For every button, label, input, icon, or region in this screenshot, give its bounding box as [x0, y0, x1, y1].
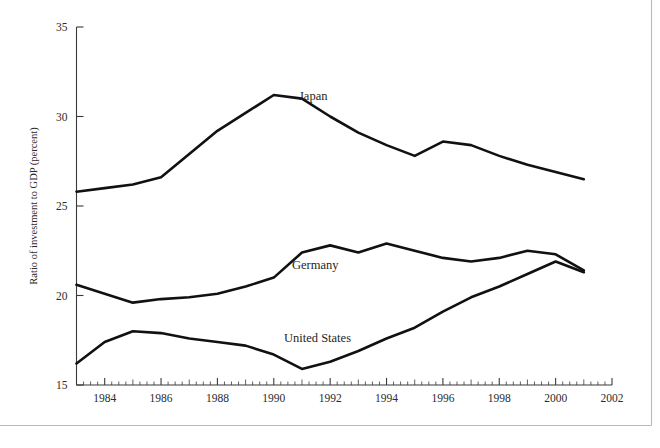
series-label-japan: Japan	[299, 89, 328, 103]
x-axis-ticks	[77, 378, 613, 385]
x-tick-label: 1992	[319, 392, 342, 404]
data-series-lines	[77, 95, 584, 369]
series-inline-labels: JapanGermanyUnited States	[284, 89, 351, 345]
x-tick-label: 1986	[150, 392, 173, 404]
y-tick-label: 30	[56, 111, 68, 123]
y-axis-tick-labels: 1520253035	[56, 21, 68, 391]
y-tick-label: 25	[56, 200, 68, 212]
x-tick-label: 1990	[262, 392, 285, 404]
x-tick-label: 1994	[375, 392, 398, 404]
series-line-japan	[77, 95, 584, 192]
y-tick-label: 20	[56, 290, 68, 302]
y-axis-title-text: Ratio of investment to GDP (percent)	[28, 127, 40, 285]
x-axis-tick-labels: 1984198619881990199219941996199820002002	[93, 392, 624, 404]
y-axis-ticks	[77, 27, 84, 385]
x-tick-label: 1984	[93, 392, 116, 404]
x-tick-label: 2000	[544, 392, 567, 404]
series-line-united-states	[77, 261, 584, 368]
x-tick-label: 1996	[431, 392, 454, 404]
chart-canvas: 1984198619881990199219941996199820002002…	[0, 0, 660, 448]
series-label-germany: Germany	[292, 258, 339, 272]
series-line-germany	[77, 244, 584, 303]
x-tick-label: 1988	[206, 392, 229, 404]
series-label-united-states: United States	[284, 331, 351, 345]
y-axis-title: Ratio of investment to GDP (percent)	[28, 127, 40, 285]
x-tick-label: 1998	[488, 392, 511, 404]
y-tick-label: 15	[56, 379, 68, 391]
investment-gdp-line-chart: 1984198619881990199219941996199820002002…	[0, 0, 660, 448]
x-tick-label: 2002	[601, 392, 624, 404]
y-tick-label: 35	[56, 21, 68, 33]
